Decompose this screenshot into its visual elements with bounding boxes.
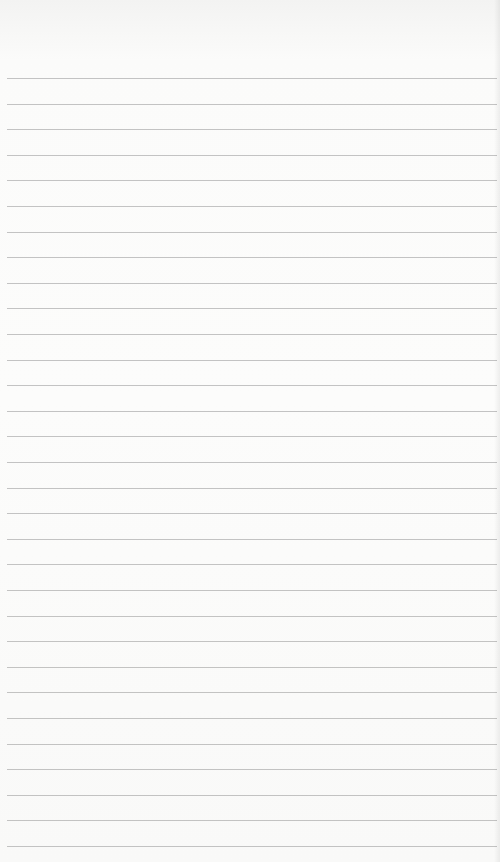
ruled-line [7, 744, 497, 745]
ruled-lines [7, 0, 497, 862]
ruled-line [7, 308, 497, 309]
ruled-line [7, 539, 497, 540]
ruled-line [7, 795, 497, 796]
ruled-line [7, 78, 497, 79]
ruled-line [7, 846, 497, 847]
ruled-line [7, 590, 497, 591]
ruled-line [7, 385, 497, 386]
ruled-line [7, 411, 497, 412]
ruled-line [7, 360, 497, 361]
ruled-line [7, 820, 497, 821]
ruled-line [7, 769, 497, 770]
ruled-line [7, 564, 497, 565]
ruled-line [7, 155, 497, 156]
ruled-line [7, 488, 497, 489]
lined-paper [0, 0, 500, 862]
ruled-line [7, 667, 497, 668]
ruled-line [7, 436, 497, 437]
ruled-line [7, 257, 497, 258]
ruled-line [7, 616, 497, 617]
ruled-line [7, 283, 497, 284]
ruled-line [7, 718, 497, 719]
ruled-line [7, 334, 497, 335]
ruled-line [7, 462, 497, 463]
ruled-line [7, 206, 497, 207]
ruled-line [7, 129, 497, 130]
ruled-line [7, 641, 497, 642]
ruled-line [7, 232, 497, 233]
ruled-line [7, 180, 497, 181]
ruled-line [7, 104, 497, 105]
ruled-line [7, 692, 497, 693]
ruled-line [7, 513, 497, 514]
